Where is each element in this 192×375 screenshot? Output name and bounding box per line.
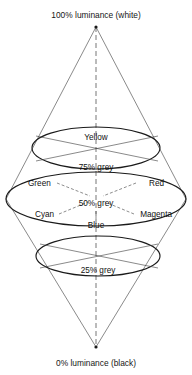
figure-canvas: 100% luminance (white) 0% luminance (bla… (0, 0, 192, 375)
yellow-label: Yellow (84, 133, 107, 142)
black-apex-point (94, 345, 97, 348)
cyan-label: Cyan (35, 210, 55, 219)
green-label: Green (28, 179, 51, 188)
red-label: Red (149, 179, 164, 188)
upper-cone-right-edge (96, 27, 186, 199)
grey-75-label: 75% grey (79, 163, 114, 172)
bottom-apex-label: 0% luminance (black) (56, 358, 136, 368)
top-apex-label: 100% luminance (white) (51, 10, 141, 20)
green-leader-line (57, 183, 90, 196)
grey-25-label: 25% grey (81, 266, 116, 275)
grey-50-label: 50% grey (79, 199, 114, 208)
bicone-color-space-figure: 100% luminance (white) 0% luminance (bla… (0, 0, 192, 375)
magenta-label: Magenta (140, 210, 172, 219)
upper-cone-left-edge (6, 27, 96, 199)
white-apex-point (94, 25, 97, 28)
blue-label: Blue (88, 221, 105, 230)
red-leader-line (103, 183, 136, 196)
